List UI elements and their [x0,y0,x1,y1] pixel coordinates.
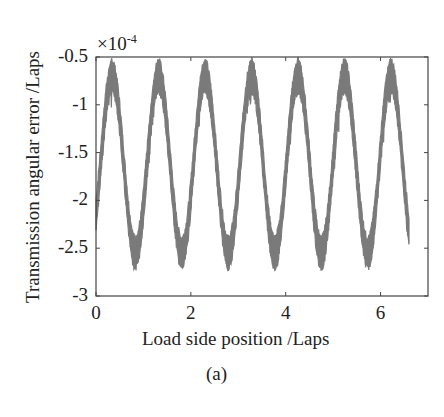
x-tick-label: 0 [86,302,106,324]
x-tick-label: 6 [371,302,391,324]
data-series-band [96,58,409,272]
x-tick-label: 4 [276,302,296,324]
figure-caption: (a) [206,363,227,385]
y-axis-label: Transmission angular error /Laps [22,27,44,327]
y-tick-label: -0.5 [38,45,88,67]
y-exponent-label: ×10-4 [97,32,137,55]
y-tick-label: -2.5 [38,236,88,258]
y-tick-label: -1 [38,93,88,115]
data-series [96,58,409,272]
y-tick-label: -1.5 [38,141,88,163]
y-tick-label: -3 [38,284,88,306]
x-tick-label: 2 [181,302,201,324]
x-axis-label: Load side position /Laps [142,328,329,350]
y-tick-label: -2 [38,188,88,210]
